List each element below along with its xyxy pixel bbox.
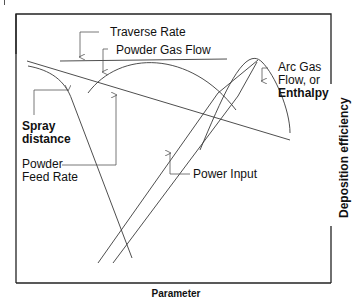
curve-power-input-2 [113,62,257,263]
leader-arc-gas [262,68,268,81]
leader-powder-feed [62,95,116,165]
label-powder-gas-flow: Powder Gas Flow [116,44,211,57]
x-axis-label: Parameter [0,288,352,299]
label-spray-2: distance [22,133,71,146]
label-traverse-rate: Traverse Rate [110,26,186,39]
label-power-input: Power Input [193,168,257,181]
curve-traverse-rate [60,59,227,61]
label-arc-gas-3: Enthalpy [278,87,329,100]
leader-traverse-rate [80,32,99,57]
y-axis-label: Deposition efficiency [337,97,351,218]
leader-spray [34,90,68,115]
label-powder-feed-2: Feed Rate [22,171,78,184]
